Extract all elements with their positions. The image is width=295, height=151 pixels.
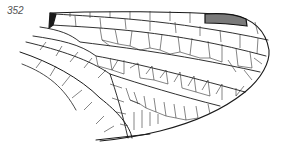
- wing-base-line: [96, 134, 150, 140]
- wing-outline: [50, 12, 269, 141]
- wing-venation-illustration: [0, 0, 295, 151]
- pterostigma: [205, 14, 247, 26]
- basal-junction: [49, 13, 56, 28]
- crossvein-network: [36, 11, 262, 132]
